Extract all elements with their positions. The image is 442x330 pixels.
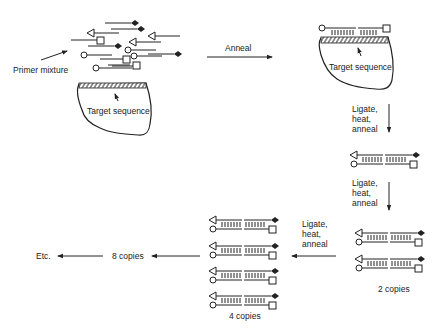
step1-label-heat: heat, — [352, 114, 371, 124]
probe-circle-1 — [125, 47, 156, 53]
step2-ligate-heat-anneal: Ligate, heat, anneal — [352, 178, 389, 210]
duplex-copy — [355, 229, 425, 246]
two-copies-label: 2 copies — [378, 284, 410, 294]
primer-mixture-label: Primer mixture — [13, 65, 69, 75]
ligase-chain-reaction-diagram: Primer mixture Target sequence Anneal Ta… — [0, 0, 442, 330]
step3-label-heat: heat, — [302, 229, 321, 239]
step2-label-heat: heat, — [352, 188, 371, 198]
duplex-copy — [209, 292, 279, 309]
two-copies-group: 2 copies — [355, 229, 425, 294]
step1-label-anneal: anneal — [352, 124, 378, 134]
probe-triangle-3 — [129, 38, 161, 46]
step2-label-anneal: anneal — [352, 198, 378, 208]
primer-pointer-arrow — [41, 51, 67, 60]
probe-diamond-2 — [111, 26, 145, 32]
step1-ligate-heat-anneal: Ligate, heat, anneal — [352, 104, 389, 134]
left-target-label: Target sequence — [87, 106, 150, 116]
duplex-copy — [209, 267, 279, 284]
duplex-copy — [209, 242, 279, 259]
probe-diamond-1 — [105, 20, 139, 26]
probe-triangle-1 — [87, 29, 119, 37]
step3-label-ligate: Ligate, — [302, 219, 328, 229]
probe-triangle-2 — [148, 32, 180, 40]
four-copies-group: 4 copies — [209, 216, 279, 321]
right-target-pointer-arrow — [358, 48, 361, 56]
step1-label-ligate: Ligate, — [352, 104, 378, 114]
right-target-hatch — [321, 37, 388, 43]
eight-copies-label: 8 copies — [112, 251, 144, 261]
duplex-product-1 — [350, 151, 420, 168]
annealed-probe-pair — [319, 25, 390, 35]
right-target-blob: Target sequence — [319, 37, 393, 89]
four-copies-label: 4 copies — [229, 311, 261, 321]
step3-ligate-heat-anneal: Ligate, heat, anneal — [292, 219, 336, 256]
etc-label: Etc. — [36, 251, 51, 261]
left-target-blob: Target sequence — [78, 83, 152, 135]
probe-circle-2 — [81, 52, 112, 58]
left-target-hatch — [79, 83, 146, 88]
duplex-copy — [209, 216, 279, 233]
right-target-label: Target sequence — [329, 62, 392, 72]
probe-square-2 — [100, 56, 130, 63]
duplex-copy — [355, 255, 425, 272]
step3-label-anneal: anneal — [302, 239, 328, 249]
step2-label-ligate: Ligate, — [352, 178, 378, 188]
anneal-label: Anneal — [225, 43, 252, 53]
probe-diamond-3 — [88, 43, 122, 49]
primer-mixture-probes — [71, 20, 182, 71]
probe-square-1 — [71, 37, 104, 44]
left-target-pointer-arrow — [115, 94, 118, 101]
